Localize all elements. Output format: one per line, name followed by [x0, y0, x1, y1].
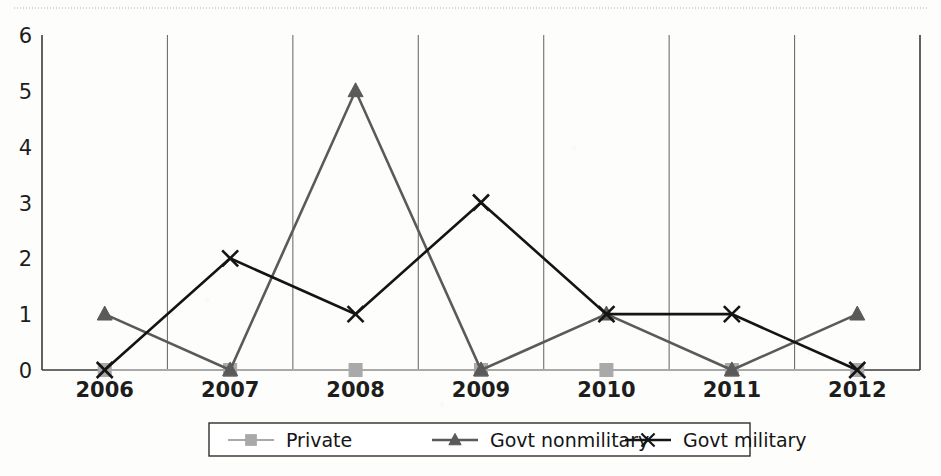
y-tick-label: 5	[19, 80, 32, 104]
data-point-marker	[600, 364, 613, 377]
legend-sample-marker	[246, 435, 257, 446]
data-point-marker	[97, 306, 112, 320]
x-tick-labels: 2006200720082009201020112012	[75, 378, 886, 402]
series-line	[105, 91, 858, 370]
data-series-layer	[97, 83, 866, 378]
y-tick-label: 3	[19, 192, 32, 216]
legend-item-label: Private	[286, 429, 352, 451]
data-point-marker	[348, 306, 364, 322]
data-point-marker	[349, 364, 362, 377]
chart-legend: PrivateGovt nonmilitaryGovt military	[209, 423, 807, 456]
y-tick-label: 2	[19, 247, 32, 271]
data-point-marker	[850, 306, 865, 320]
series-govt-nonmilitary	[97, 83, 865, 376]
x-tick-label: 2007	[201, 378, 259, 402]
x-tick-label: 2011	[703, 378, 761, 402]
series-line	[105, 203, 858, 371]
y-tick-label: 4	[19, 136, 32, 160]
y-tick-label: 0	[19, 359, 32, 383]
y-tick-label: 1	[19, 303, 32, 327]
x-tick-label: 2010	[577, 378, 635, 402]
x-tick-label: 2006	[75, 378, 133, 402]
y-tick-labels: 0123456	[19, 24, 32, 383]
legend-item-label: Govt military	[683, 429, 807, 451]
data-point-marker	[473, 195, 489, 211]
data-point-marker	[348, 83, 363, 97]
x-tick-label: 2008	[326, 378, 384, 402]
series-govt-military	[97, 195, 866, 379]
x-tick-label: 2009	[452, 378, 510, 402]
chart-page: 0123456 2006200720082009201020112012 Pri…	[0, 0, 941, 476]
data-point-marker	[222, 250, 238, 266]
legend-items: PrivateGovt nonmilitaryGovt military	[228, 429, 807, 451]
x-tick-label: 2012	[828, 378, 886, 402]
y-tick-label: 6	[19, 24, 32, 48]
line-chart: 0123456 2006200720082009201020112012 Pri…	[0, 0, 941, 476]
